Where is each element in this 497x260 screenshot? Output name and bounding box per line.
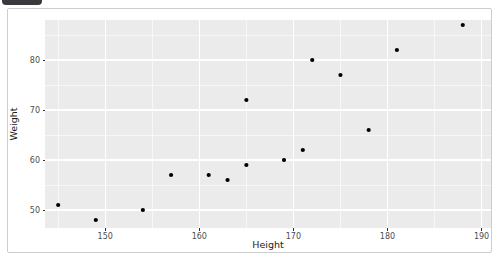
plot-panel bbox=[45, 20, 491, 228]
x-tick-label: 150 bbox=[98, 232, 113, 241]
data-point bbox=[225, 178, 229, 182]
x-tick-label: 190 bbox=[474, 232, 489, 241]
x-axis-title: Height bbox=[252, 239, 284, 250]
data-point bbox=[141, 208, 145, 212]
data-point bbox=[461, 23, 465, 27]
data-point bbox=[244, 163, 248, 167]
data-point bbox=[310, 58, 314, 62]
data-point bbox=[338, 73, 342, 77]
x-tick-label: 180 bbox=[380, 232, 395, 241]
data-point bbox=[56, 203, 60, 207]
data-point bbox=[244, 98, 248, 102]
y-tick-label: 50 bbox=[30, 206, 40, 215]
data-point bbox=[301, 148, 305, 152]
scatter-chart: 15016017018019050607080HeightWeight bbox=[0, 0, 497, 260]
data-point bbox=[207, 173, 211, 177]
data-point bbox=[367, 128, 371, 132]
data-point bbox=[395, 48, 399, 52]
y-tick-label: 70 bbox=[30, 106, 40, 115]
browser-tab-fragment[interactable] bbox=[2, 0, 42, 5]
data-point bbox=[169, 173, 173, 177]
y-axis-title: Weight bbox=[8, 107, 19, 140]
y-tick-label: 60 bbox=[30, 156, 40, 165]
y-tick-label: 80 bbox=[30, 56, 40, 65]
x-tick-label: 170 bbox=[286, 232, 301, 241]
screenshot-root: 15016017018019050607080HeightWeight bbox=[0, 0, 497, 260]
data-point bbox=[282, 158, 286, 162]
data-point bbox=[94, 218, 98, 222]
x-tick-label: 160 bbox=[192, 232, 207, 241]
